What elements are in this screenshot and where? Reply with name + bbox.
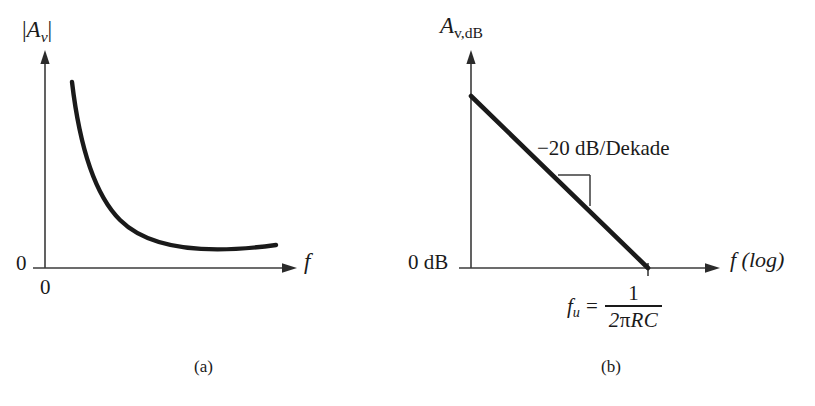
panel-b-x-axis-label: f (log) — [730, 249, 784, 271]
panel-b-y-axis-label: Av,dB — [440, 14, 483, 37]
panel-a-y-axis-label: |Av| — [22, 18, 52, 41]
panel-b-y-axis-label-sub: v,dB — [454, 24, 483, 41]
corner-frequency-symbol-sub: u — [573, 304, 580, 320]
y-axis-b — [466, 50, 475, 268]
panel-b-plot — [407, 0, 815, 406]
panel-b-y-origin-label: 0 dB — [408, 252, 448, 273]
panel-b-x-axis-label-text: f (log) — [730, 247, 784, 272]
abs-bar-right: | — [48, 17, 53, 42]
panel-a-plot — [0, 0, 407, 406]
fraction-denominator: 2πRC — [605, 307, 662, 331]
x-axis-a — [33, 263, 297, 273]
panel-a-y-axis-label-sub: v — [41, 28, 48, 45]
denominator-coefficient: 2 — [609, 308, 620, 332]
x-axis-b — [459, 263, 720, 273]
corner-frequency-formula: fu = 1 2πRC — [567, 282, 662, 331]
panel-a-caption: (a) — [0, 358, 407, 375]
corner-frequency-symbol-base: f — [567, 294, 573, 318]
gain-decay-curve — [72, 82, 276, 249]
denominator-rc: RC — [631, 308, 658, 332]
pi-symbol: π — [620, 308, 631, 332]
panel-a-origin-label-y: 0 — [16, 253, 27, 274]
panel-a-x-axis-label: f — [304, 250, 310, 273]
rolloff-asymptote-line — [471, 96, 648, 268]
y-axis-a — [40, 50, 49, 268]
figure-root: |Av| 0 0 f (a) — [0, 0, 815, 406]
corner-frequency-fraction: 1 2πRC — [605, 282, 662, 331]
slope-annotation-label: −20 dB/Dekade — [537, 138, 670, 159]
x-axis-arrowhead-icon — [705, 263, 720, 273]
panel-a: |Av| 0 0 f (a) — [0, 0, 407, 406]
corner-frequency-symbol: fu — [567, 296, 580, 317]
x-axis-arrowhead-icon — [282, 263, 297, 273]
equals-sign: = — [586, 296, 598, 317]
slope-reference-triangle — [558, 175, 590, 206]
panel-b-y-axis-label-base: A — [440, 13, 454, 38]
panel-a-origin-label-x: 0 — [40, 277, 51, 298]
panel-a-y-axis-label-base: A — [27, 17, 41, 42]
panel-b: Av,dB 0 dB −20 dB/Dekade f (log) fu = 1 … — [407, 0, 815, 406]
panel-b-caption: (b) — [407, 358, 815, 375]
y-axis-arrowhead-icon — [466, 50, 475, 64]
y-axis-arrowhead-icon — [40, 50, 49, 64]
fraction-numerator: 1 — [623, 282, 644, 305]
